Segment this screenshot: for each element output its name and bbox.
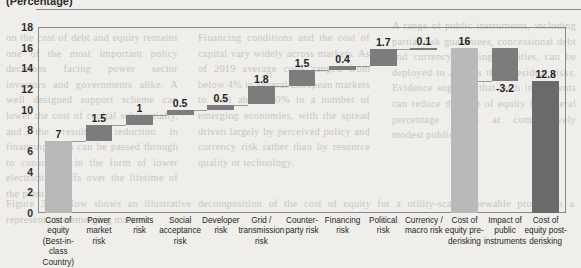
bar-value-label-3: 0.5 <box>173 97 188 109</box>
bar-value-label-8: 1.7 <box>376 36 391 48</box>
bar-5 <box>248 86 275 105</box>
connector-line <box>478 81 492 82</box>
connector-line <box>397 49 411 50</box>
bar-value-label-0: 7 <box>55 128 61 140</box>
bar-value-label-5: 1.8 <box>254 73 269 85</box>
bar-value-label-1: 1.5 <box>92 112 107 124</box>
x-tick-label-12: Cost ofequity post-derisking <box>521 216 570 247</box>
connector-line <box>356 66 370 67</box>
header-rule <box>36 9 581 10</box>
y-tick-label: 0 <box>7 207 33 219</box>
connector-line <box>315 70 329 71</box>
figure-header: (Percentage) <box>0 0 581 15</box>
bar-3 <box>167 110 194 115</box>
connector-line <box>275 86 289 87</box>
y-tick-label: 6 <box>7 145 33 157</box>
y-tick-label: 10 <box>7 104 33 116</box>
bar-6 <box>289 70 316 86</box>
bar-1 <box>86 125 113 141</box>
bar-value-label-6: 1.5 <box>295 57 310 69</box>
y-tick-label: 4 <box>7 166 33 178</box>
bar-value-label-10: 16 <box>459 35 471 47</box>
figure-caption: (Percentage) <box>6 0 73 7</box>
connector-line <box>194 110 208 111</box>
bar-11 <box>492 48 519 81</box>
connector-line <box>72 141 86 142</box>
y-tick-label: 16 <box>7 42 33 54</box>
y-tick-label: 18 <box>7 21 33 33</box>
y-tick-label: 2 <box>7 186 33 198</box>
y-tick-label: 14 <box>7 62 33 74</box>
bar-value-label-2: 1 <box>137 102 143 114</box>
bar-4 <box>207 105 234 110</box>
bar-0 <box>45 141 72 213</box>
connector-line <box>153 115 167 116</box>
bar-value-label-4: 0.5 <box>213 92 228 104</box>
bar-value-label-7: 0.4 <box>335 53 350 65</box>
y-tick-label: 8 <box>7 124 33 136</box>
bar-value-label-11: -3.2 <box>496 82 514 94</box>
y-tick-label: 12 <box>7 83 33 95</box>
bar-7 <box>329 66 356 70</box>
connector-line <box>234 105 248 106</box>
bar-2 <box>126 115 153 125</box>
bar-10 <box>451 48 478 213</box>
bar-value-label-9: 0.1 <box>417 35 432 47</box>
bar-8 <box>370 49 397 67</box>
connector-line <box>112 125 126 126</box>
bar-value-label-12: 12.8 <box>535 68 555 80</box>
bar-12 <box>532 81 559 213</box>
bar-9 <box>410 48 437 50</box>
bar-series: 71.510.50.51.81.50.41.70.116-3.212.8 <box>38 27 566 213</box>
